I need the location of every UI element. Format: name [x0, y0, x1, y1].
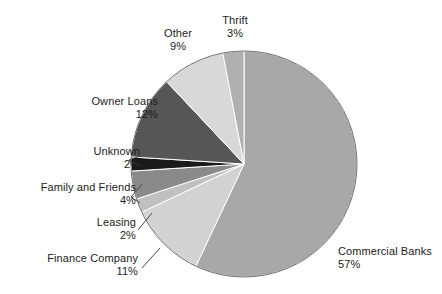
- pie-chart: Thrift 3% Other 9% Owner Loans 12% Unkno…: [0, 0, 442, 294]
- slice-label-leasing-percent: 2%: [58, 229, 136, 242]
- slice-label-finance-company: Finance Company 11%: [22, 252, 138, 278]
- slice-label-other-percent: 9%: [148, 40, 208, 53]
- slice-label-other: Other 9%: [148, 27, 208, 53]
- slice-label-leasing: Leasing 2%: [58, 216, 136, 242]
- slice-label-finance-company-name: Finance Company: [22, 252, 138, 265]
- slice-label-unknown-percent: 2%: [58, 158, 140, 171]
- slice-label-commercial-banks: Commercial Banks 57%: [338, 245, 442, 271]
- slice-label-unknown-name: Unknown: [58, 145, 140, 158]
- leader-line-finance-company: [142, 248, 160, 268]
- slice-label-other-name: Other: [148, 27, 208, 40]
- slice-label-family-and-friends: Family and Friends 4%: [12, 181, 136, 207]
- pie-slice-group: [131, 51, 357, 277]
- slice-label-family-and-friends-name: Family and Friends: [12, 181, 136, 194]
- slice-label-commercial-banks-name: Commercial Banks: [338, 245, 442, 258]
- slice-label-thrift: Thrift 3%: [205, 14, 265, 40]
- slice-label-thrift-name: Thrift: [205, 14, 265, 27]
- slice-label-family-and-friends-percent: 4%: [12, 194, 136, 207]
- slice-label-owner-loans: Owner Loans 12%: [62, 95, 158, 121]
- slice-label-owner-loans-percent: 12%: [62, 108, 158, 121]
- slice-label-unknown: Unknown 2%: [58, 145, 140, 171]
- slice-label-leasing-name: Leasing: [58, 216, 136, 229]
- slice-label-commercial-banks-percent: 57%: [338, 258, 442, 271]
- slice-label-thrift-percent: 3%: [205, 27, 265, 40]
- slice-label-finance-company-percent: 11%: [22, 265, 138, 278]
- slice-label-owner-loans-name: Owner Loans: [62, 95, 158, 108]
